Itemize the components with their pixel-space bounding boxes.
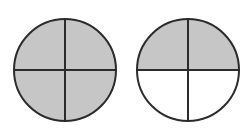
fraction-circles-diagram: [0, 0, 248, 130]
circle-right: [137, 19, 239, 121]
circle-left: [14, 19, 116, 121]
